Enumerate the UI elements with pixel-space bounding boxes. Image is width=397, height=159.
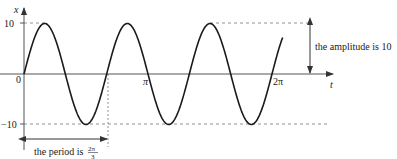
origin-label: 0 [16,74,21,85]
t-axis-label: t [330,79,333,90]
period-numerator: 2π [88,145,96,153]
x-tick-label-2pi: 2π [273,76,283,87]
sine-wave-diagram: x t 10 0 −10 π 2π the amplitude is 10 th… [0,0,397,159]
period-denominator: 3 [91,153,95,159]
amplitude-label: the amplitude is 10 [315,41,391,52]
x-tick-label-pi: π [143,76,149,87]
period-label: the period is [34,146,84,157]
y-tick-label-10: 10 [4,18,14,29]
y-tick-label-minus-10: −10 [1,119,17,130]
y-axis-label: x [13,4,19,15]
